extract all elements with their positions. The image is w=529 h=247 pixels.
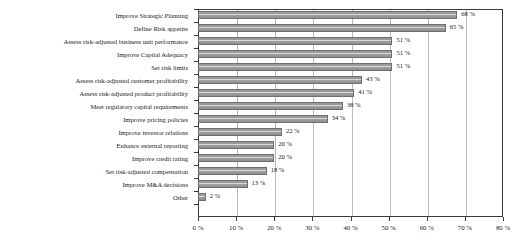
category-label: Assess risk-adjusted product profitabili… bbox=[0, 87, 193, 100]
bar-value-label: 20 % bbox=[278, 138, 292, 150]
bars-container: 68 %65 %51 %51 %51 %43 %41 %38 %34 %22 %… bbox=[198, 9, 503, 217]
bar-row: 65 % bbox=[198, 22, 503, 35]
x-axis-tick bbox=[312, 217, 313, 221]
bar bbox=[198, 167, 267, 175]
bar bbox=[198, 24, 446, 32]
x-axis-tick-label: 60 % bbox=[420, 222, 434, 233]
category-label: Assess risk-adjusted business unit perfo… bbox=[0, 35, 193, 48]
bar-value-label: 38 % bbox=[347, 99, 361, 111]
category-label: Improve Capital Adequacy bbox=[0, 48, 193, 61]
x-axis-tick bbox=[198, 217, 199, 221]
category-label: Meet regulatory capital requirements bbox=[0, 100, 193, 113]
bar bbox=[198, 128, 282, 136]
category-label: Improve credit rating bbox=[0, 152, 193, 165]
category-label: Improve Strategic Planning bbox=[0, 9, 193, 22]
bar-row: 38 % bbox=[198, 100, 503, 113]
bar-value-label: 41 % bbox=[358, 86, 372, 98]
x-axis-tick-label: 30 % bbox=[305, 222, 319, 233]
x-axis-tick-label: 10 % bbox=[229, 222, 243, 233]
bar-value-label: 43 % bbox=[366, 73, 380, 85]
category-label: Set risk limits bbox=[0, 61, 193, 74]
bar-value-label: 13 % bbox=[252, 177, 266, 189]
x-axis-tick bbox=[236, 217, 237, 221]
bar-value-label: 65 % bbox=[450, 21, 464, 33]
bar-value-label: 34 % bbox=[332, 112, 346, 124]
bar-value-label: 2 % bbox=[210, 190, 220, 202]
bar-row: 18 % bbox=[198, 165, 503, 178]
bar bbox=[198, 154, 274, 162]
x-axis-tick-label: 70 % bbox=[458, 222, 472, 233]
bar-row: 43 % bbox=[198, 74, 503, 87]
bar-value-label: 18 % bbox=[271, 164, 285, 176]
category-label: Define Risk appetite bbox=[0, 22, 193, 35]
bar-value-label: 51 % bbox=[396, 47, 410, 59]
bar bbox=[198, 37, 392, 45]
category-label: Improve pricing policies bbox=[0, 113, 193, 126]
bar bbox=[198, 141, 274, 149]
bar-row: 51 % bbox=[198, 48, 503, 61]
bar-row: 2 % bbox=[198, 191, 503, 204]
category-axis-labels: Improve Strategic PlanningDefine Risk ap… bbox=[0, 9, 193, 217]
bar bbox=[198, 11, 457, 19]
bar-row: 51 % bbox=[198, 35, 503, 48]
category-label: Other bbox=[0, 191, 193, 204]
bar-row: 20 % bbox=[198, 152, 503, 165]
bar-value-label: 51 % bbox=[396, 60, 410, 72]
bar bbox=[198, 193, 206, 201]
x-axis-tick bbox=[389, 217, 390, 221]
bar-chart: Improve Strategic PlanningDefine Risk ap… bbox=[0, 0, 529, 247]
category-label: Improve M&A decisions bbox=[0, 178, 193, 191]
bar bbox=[198, 50, 392, 58]
x-axis-tick bbox=[427, 217, 428, 221]
x-axis-tick-label: 50 % bbox=[382, 222, 396, 233]
x-axis-tick bbox=[351, 217, 352, 221]
x-axis-tick bbox=[274, 217, 275, 221]
bar-row: 51 % bbox=[198, 61, 503, 74]
x-axis-tick-label: 80 % bbox=[496, 222, 510, 233]
x-axis-tick-label: 40 % bbox=[343, 222, 357, 233]
bar-value-label: 22 % bbox=[286, 125, 300, 137]
bar bbox=[198, 76, 362, 84]
category-label: Assess risk-adjusted customer profitabil… bbox=[0, 74, 193, 87]
x-axis-tick-label: 0 % bbox=[193, 222, 204, 233]
bar bbox=[198, 115, 328, 123]
bar-row: 20 % bbox=[198, 139, 503, 152]
x-axis-tick bbox=[503, 217, 504, 221]
category-label: Enhance external reporting bbox=[0, 139, 193, 152]
bar bbox=[198, 102, 343, 110]
bar-value-label: 68 % bbox=[461, 8, 475, 20]
category-label: Improve investor relations bbox=[0, 126, 193, 139]
bar-row: 34 % bbox=[198, 113, 503, 126]
bar-row: 22 % bbox=[198, 126, 503, 139]
category-label: Set risk-adjusted compensation bbox=[0, 165, 193, 178]
bar-value-label: 20 % bbox=[278, 151, 292, 163]
x-axis-labels: 0 %10 %20 %30 %40 %50 %60 %70 %80 % bbox=[198, 222, 503, 236]
bar bbox=[198, 89, 354, 97]
x-axis-tick bbox=[465, 217, 466, 221]
x-axis-tick-label: 20 % bbox=[267, 222, 281, 233]
bar bbox=[198, 180, 248, 188]
bar-row: 13 % bbox=[198, 178, 503, 191]
bar-value-label: 51 % bbox=[396, 34, 410, 46]
bar bbox=[198, 63, 392, 71]
